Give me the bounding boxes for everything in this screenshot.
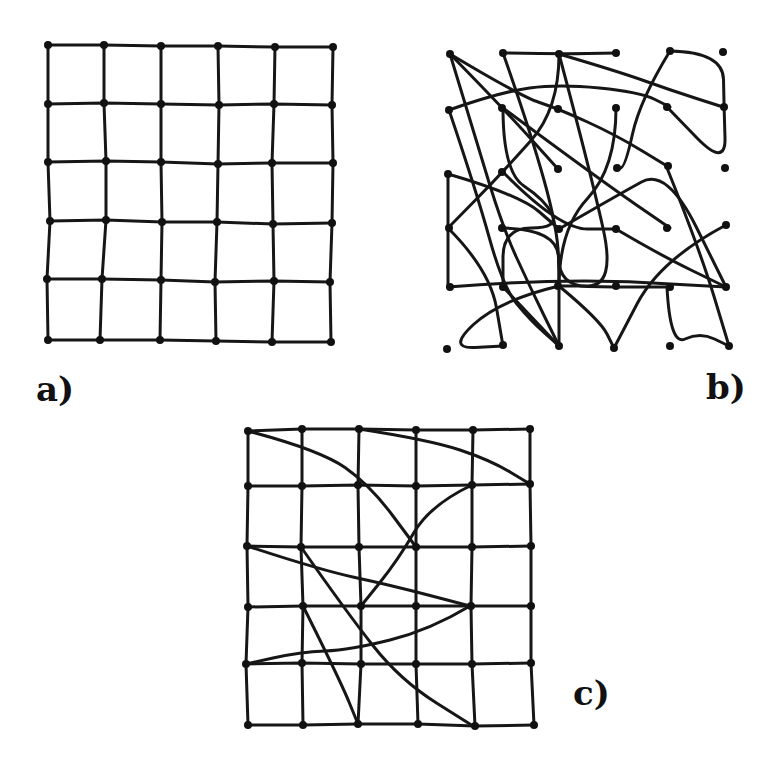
node-dot <box>498 168 506 176</box>
node-dot <box>725 342 733 350</box>
node-dot <box>498 224 506 232</box>
node-dot <box>612 49 620 57</box>
grid-column-line <box>330 47 333 342</box>
node-dot <box>213 218 221 226</box>
node-dot <box>414 720 422 728</box>
node-dot <box>269 220 277 228</box>
grid-row-line <box>248 484 530 486</box>
node-dot <box>96 336 104 344</box>
node-dot <box>527 602 535 610</box>
grid-row-line <box>48 161 333 164</box>
node-dot <box>157 276 165 284</box>
node-dot <box>720 103 728 111</box>
node-dot <box>444 170 452 178</box>
node-dot <box>215 101 223 109</box>
node-dot <box>297 543 305 551</box>
node-dot <box>554 165 562 173</box>
node-dot <box>555 50 563 58</box>
grid-column-line <box>215 46 219 341</box>
node-dot <box>722 283 730 291</box>
node-dot <box>244 721 252 729</box>
node-dot <box>412 543 420 551</box>
grid-row-line <box>48 45 333 47</box>
tangled-link <box>559 179 726 287</box>
node-dot <box>214 160 222 168</box>
grid-row-line <box>248 724 534 726</box>
node-dot <box>357 660 365 668</box>
panel-c-label: c) <box>573 676 610 710</box>
tangled-link <box>559 286 614 348</box>
node-dot <box>270 100 278 108</box>
grid-row-line <box>248 429 530 431</box>
node-dot <box>664 162 672 170</box>
node-dot <box>354 720 362 728</box>
node-dot <box>298 482 306 490</box>
node-dot <box>157 158 165 166</box>
grid-column-line <box>301 429 303 725</box>
node-dot <box>666 283 674 291</box>
node-dot <box>412 602 420 610</box>
node-dot <box>468 481 476 489</box>
node-dot <box>299 602 307 610</box>
long-range-link <box>246 606 470 664</box>
node-dot <box>663 224 671 232</box>
node-dot <box>271 43 279 51</box>
grid-row-line <box>48 103 332 105</box>
node-dot <box>526 425 534 433</box>
grid-column-line <box>471 430 475 726</box>
node-dot <box>554 105 562 113</box>
node-dot <box>328 101 336 109</box>
node-dot <box>268 338 276 346</box>
node-dot <box>445 106 453 114</box>
node-dot <box>527 542 535 550</box>
grid-column-line <box>100 45 106 340</box>
grid-column-line <box>416 430 418 724</box>
grid-column-line <box>47 45 50 340</box>
node-dot <box>468 660 476 668</box>
tangled-link <box>503 108 670 228</box>
panel-a-regular-grid <box>43 41 337 346</box>
node-dot <box>527 659 535 667</box>
node-dot <box>298 425 306 433</box>
node-dot <box>663 103 671 111</box>
node-dot <box>666 342 674 350</box>
long-range-link <box>359 429 530 484</box>
node-dot <box>299 721 307 729</box>
grid-column-line <box>160 46 162 340</box>
node-dot <box>242 660 250 668</box>
figure-canvas <box>0 0 776 772</box>
node-dot <box>156 336 164 344</box>
node-dot <box>554 282 562 290</box>
node-dot <box>499 341 507 349</box>
node-dot <box>721 164 729 172</box>
node-dot <box>44 41 52 49</box>
node-dot <box>244 603 252 611</box>
node-dot <box>610 344 618 352</box>
node-dot <box>412 660 420 668</box>
node-dot <box>719 48 727 56</box>
node-dot <box>412 426 420 434</box>
node-dot <box>469 426 477 434</box>
node-dot <box>499 49 507 57</box>
panel-a-label: a) <box>36 372 74 406</box>
grid-column-line <box>246 431 248 725</box>
node-dot <box>499 283 507 291</box>
panel-b-label: b) <box>706 370 746 404</box>
node-dot <box>211 278 219 286</box>
node-dot <box>354 481 362 489</box>
node-dot <box>445 224 453 232</box>
node-dot <box>158 218 166 226</box>
node-dot <box>357 602 365 610</box>
tangled-link <box>667 51 725 153</box>
node-dot <box>355 425 363 433</box>
node-dot <box>468 543 476 551</box>
grid-row-line <box>50 220 332 224</box>
node-dot <box>498 104 506 112</box>
node-dot <box>555 225 563 233</box>
node-dot <box>98 275 106 283</box>
grid-row-line <box>48 340 331 342</box>
node-dot <box>298 659 306 667</box>
node-dot <box>555 342 563 350</box>
node-dot <box>329 159 337 167</box>
node-dot <box>44 100 52 108</box>
